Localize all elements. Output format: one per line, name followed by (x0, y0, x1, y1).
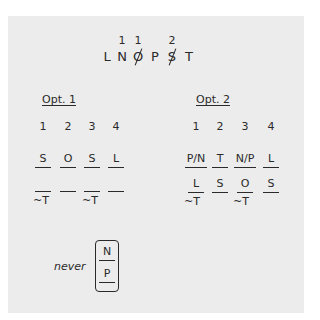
opt2-row1-slot-1: P/N (184, 153, 208, 168)
option-1-title: Opt. 1 (42, 93, 76, 106)
opt2-position-1: 1 (188, 121, 204, 133)
opt1-row2-slot-2 (59, 177, 77, 192)
opt2-row2-slot-1: L (187, 178, 205, 193)
opt1-row1-slot-4: L (107, 153, 125, 168)
opt2-row2-slot-3: O (236, 178, 254, 193)
never-bottom-slot: P (98, 268, 116, 283)
opt1-note-slot-1: ~T (33, 195, 51, 207)
letter-p: P (148, 50, 162, 64)
opt1-row1-slot-3: S (83, 153, 101, 168)
opt2-position-3: 3 (237, 121, 253, 133)
opt1-position-1: 1 (35, 121, 51, 133)
opt2-row2-slot-4: S (262, 178, 280, 193)
never-label: never (54, 261, 86, 273)
opt1-position-2: 2 (60, 121, 76, 133)
opt1-row2-slot-1 (34, 177, 52, 192)
opt1-position-3: 3 (84, 121, 100, 133)
opt2-position-2: 2 (212, 121, 228, 133)
opt2-row2-slot-2: S (211, 178, 229, 193)
opt1-row1-slot-2: O (59, 153, 77, 168)
letter-l: L (100, 50, 114, 64)
opt2-note-slot-1: ~T (184, 196, 202, 208)
option-2-title: Opt. 2 (196, 93, 230, 106)
never-top-slot: N (98, 246, 116, 261)
letter-n: N (115, 50, 129, 64)
opt1-row1-slot-1: S (34, 153, 52, 168)
opt2-row1-slot-3: N/P (233, 153, 257, 168)
opt2-note-slot-3: ~T (233, 196, 251, 208)
opt1-row2-slot-4 (107, 177, 125, 192)
opt2-row1-slot-4: L (262, 153, 280, 168)
never-adjacent-box: N P (95, 240, 119, 292)
opt2-position-4: 4 (263, 121, 279, 133)
count-o: 1 (131, 35, 145, 47)
opt1-row2-slot-3 (83, 177, 101, 192)
letter-t: T (182, 50, 196, 64)
count-s: 2 (165, 35, 179, 47)
opt1-note-slot-3: ~T (82, 195, 100, 207)
opt2-row1-slot-2: T (211, 153, 229, 168)
count-n: 1 (115, 35, 129, 47)
opt1-position-4: 4 (108, 121, 124, 133)
